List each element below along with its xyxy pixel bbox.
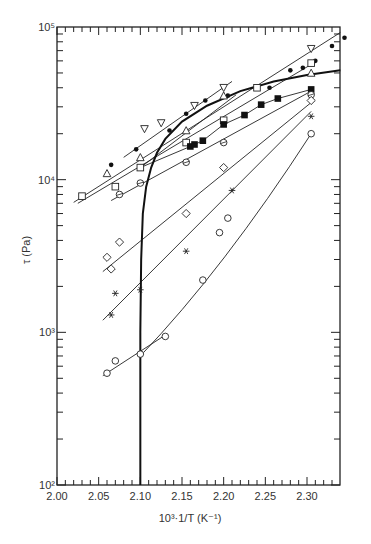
tri-down-marker (141, 126, 149, 133)
y-tick-label: 10⁵ (38, 21, 55, 33)
dot-marker (203, 98, 208, 103)
circle-marker (308, 130, 315, 137)
filled-square-marker (220, 121, 227, 128)
y-tick-label: 10⁴ (38, 174, 55, 186)
tri-down-marker (157, 120, 165, 127)
circle-marker (225, 215, 232, 222)
fit-line (103, 111, 311, 320)
diamond-marker (307, 96, 315, 104)
fit-line (103, 335, 165, 376)
dot-marker (267, 85, 272, 90)
dot-marker (167, 128, 172, 133)
x-tick-label: 2.30 (296, 490, 317, 502)
fit-line (103, 103, 311, 272)
y-axis-ticks (57, 34, 340, 485)
x-tick-label: 2.05 (88, 490, 109, 502)
diamond-marker (107, 265, 115, 273)
data-markers (79, 35, 347, 376)
circle-marker (104, 370, 111, 377)
square-marker (112, 183, 119, 190)
y-tick-labels: 10²10³10⁴10⁵ (38, 21, 55, 491)
dot-marker (342, 35, 347, 40)
arrhenius-plot: 2.002.052.102.152.202.252.30 10²10³10⁴10… (0, 0, 371, 544)
x-axis-title: 10³·1/T (K⁻¹) (159, 512, 222, 524)
circle-marker (137, 351, 144, 358)
fit-polyline (140, 89, 311, 167)
dot-marker (288, 68, 293, 73)
x-tick-label: 2.10 (130, 490, 151, 502)
diamond-marker (182, 209, 190, 217)
square-marker (137, 164, 144, 171)
circle-marker (216, 229, 223, 236)
tri-down-marker (220, 84, 228, 91)
filled-square-marker (191, 141, 198, 148)
x-tick-label: 2.25 (255, 490, 276, 502)
x-tick-label: 2.15 (171, 490, 192, 502)
diamond-marker (220, 163, 228, 171)
fit-line (78, 62, 316, 203)
plot-border (57, 27, 340, 485)
tri-up-marker (307, 69, 315, 76)
dot-marker (330, 44, 335, 49)
fit-lines (74, 33, 341, 376)
y-tick-label: 10³ (39, 326, 55, 338)
diamond-marker (115, 238, 123, 246)
y-tick-label: 10² (39, 479, 55, 491)
dot-marker (109, 163, 114, 168)
square-marker (308, 60, 315, 67)
x-tick-label: 2.00 (46, 490, 67, 502)
circle-marker (200, 277, 207, 284)
x-tick-labels: 2.002.052.102.152.202.252.30 (46, 490, 317, 502)
dot-marker (184, 112, 189, 117)
circle-marker (162, 333, 169, 340)
filled-square-marker (275, 95, 282, 102)
diamond-marker (103, 253, 111, 261)
filled-square-marker (200, 137, 207, 144)
x-axis-ticks (57, 27, 332, 485)
x-tick-label: 2.20 (213, 490, 234, 502)
dot-marker (301, 66, 306, 71)
filled-square-marker (258, 101, 265, 108)
filled-square-marker (241, 112, 248, 119)
square-marker (79, 193, 86, 200)
fit-line (124, 81, 232, 157)
circle-marker (112, 358, 119, 365)
square-marker (254, 84, 261, 91)
dot-marker (134, 147, 139, 152)
tri-up-marker (137, 154, 145, 161)
plot-frame (57, 27, 340, 485)
y-axis-title: τ (Pa) (20, 236, 32, 264)
tri-up-marker (103, 170, 111, 177)
